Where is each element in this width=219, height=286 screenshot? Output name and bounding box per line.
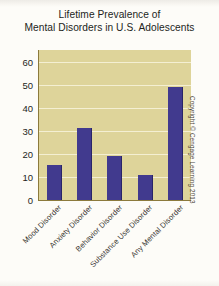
bar-series xyxy=(39,50,191,200)
bar xyxy=(47,165,62,200)
x-axis-tick-label: Any Mental Disorder xyxy=(129,203,185,259)
x-axis-labels: Mood DisorderAnxiety DisorderBehavior Di… xyxy=(38,201,190,281)
bar-slot xyxy=(161,50,191,200)
y-axis-tick-label: 20 xyxy=(0,148,33,159)
copyright-notice: Copyright © Cengage Learning 2013 xyxy=(189,96,196,204)
y-axis-tick-label: 0 xyxy=(0,195,33,206)
y-axis-tick-label: 10 xyxy=(0,171,33,182)
bar-slot xyxy=(69,50,99,200)
chart-title-line-2: Mental Disorders in U.S. Adolescents xyxy=(4,22,215,35)
chart-figure: Lifetime Prevalence of Mental Disorders … xyxy=(0,0,219,286)
bar xyxy=(107,156,122,200)
bar-slot xyxy=(100,50,130,200)
y-axis-tick-label: 50 xyxy=(0,79,33,90)
y-axis-tick-label: 30 xyxy=(0,125,33,136)
plot-area xyxy=(38,50,191,201)
bar-slot xyxy=(39,50,69,200)
bar-slot xyxy=(130,50,160,200)
chart-title-line-1: Lifetime Prevalence of xyxy=(4,9,215,22)
bar xyxy=(168,87,183,200)
y-axis: 0102030405060 xyxy=(0,50,33,200)
scan-artifact-top xyxy=(0,0,219,7)
chart-title: Lifetime Prevalence of Mental Disorders … xyxy=(4,9,215,34)
bar xyxy=(138,175,153,200)
bar xyxy=(77,128,92,200)
y-axis-tick-label: 40 xyxy=(0,102,33,113)
y-axis-tick-label: 60 xyxy=(0,56,33,67)
